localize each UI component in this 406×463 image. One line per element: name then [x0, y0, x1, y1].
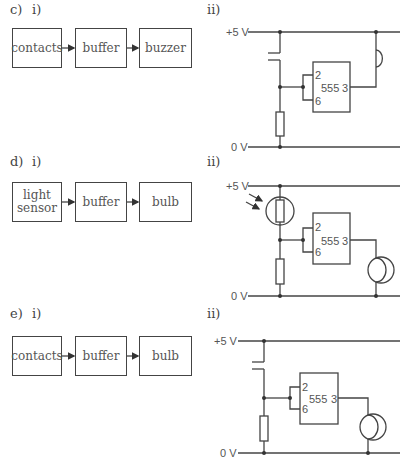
chip-555-label: 555 [321, 82, 339, 94]
chip-555-label: 555 [309, 393, 327, 405]
pin-2-label: 2 [315, 69, 321, 81]
pin-6-label: 6 [315, 95, 321, 107]
ground-label: 0 V [220, 447, 237, 459]
circuit-e-contacts-bulb: +5 V 0 V 2 6 555 3 [214, 335, 400, 459]
pin-3-label: 3 [342, 82, 348, 94]
circuit-diagrams: +5 V 0 V 2 6 555 3 +5 V 0 V [0, 0, 406, 463]
ldr-icon [266, 197, 294, 225]
supply-label: +5 V [226, 180, 250, 192]
block-arrows [62, 48, 138, 356]
ground-label: 0 V [231, 290, 248, 302]
supply-label: +5 V [214, 335, 238, 347]
pin-3-label: 3 [342, 235, 348, 247]
pin-6-label: 6 [315, 246, 321, 258]
ground-label: 0 V [231, 141, 248, 153]
pin-2-label: 2 [315, 221, 321, 233]
pin-2-label: 2 [302, 381, 308, 393]
chip-555-label: 555 [321, 235, 339, 247]
bulb-icon [360, 414, 386, 440]
buzzer-icon [376, 50, 382, 67]
circuit-c-contacts-buzzer: +5 V 0 V 2 6 555 3 [226, 26, 400, 153]
supply-label: +5 V [226, 26, 250, 38]
pin-6-label: 6 [302, 403, 308, 415]
circuit-d-ldr-bulb: +5 V 0 V 2 6 555 3 [226, 180, 400, 302]
pin-3-label: 3 [331, 393, 337, 405]
bulb-icon [368, 257, 394, 283]
